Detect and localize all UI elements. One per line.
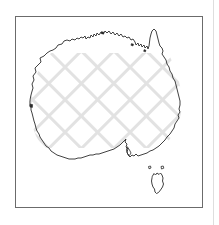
page: Australia [0, 0, 219, 225]
gulf-coast-detail [131, 44, 134, 47]
mainland-hatch-fill [28, 53, 183, 148]
bass-strait-island-west [149, 166, 152, 169]
cape-york-detail [144, 50, 146, 52]
west-coast-detail [30, 104, 33, 107]
tasmania-outline [152, 173, 164, 194]
australia-map [0, 0, 219, 225]
north-coast-detail [101, 32, 104, 35]
bass-strait-island-east [161, 166, 164, 169]
